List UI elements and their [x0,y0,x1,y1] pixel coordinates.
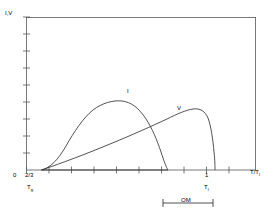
chart-root: I,V T/Tl 0 2/3 1 Tg Tl I V OM [0,0,279,216]
curve-v-label: V [177,105,181,112]
x-tick-label-zero: 0 [13,172,16,179]
x-tick-label-one: 1 [205,172,208,179]
tl-annotation: Tl [204,184,209,193]
tl-annotation-subscript: l [208,187,209,192]
y-axis-label: I,V [5,10,12,17]
x-axis-label: T/Tl [250,169,260,178]
curve-i [42,101,169,170]
curve-v [42,109,216,170]
tg-annotation-subscript: g [31,187,33,192]
axes-frame [27,17,257,170]
x-tick-label-two-thirds: 2/3 [25,172,33,179]
om-label: OM [181,197,191,204]
tg-annotation: Tg [27,184,33,193]
chart-canvas [0,0,279,216]
x-axis-label-subscript: l [259,172,260,177]
curve-i-label: I [127,88,129,95]
x-axis-label-main: T/T [250,169,259,175]
